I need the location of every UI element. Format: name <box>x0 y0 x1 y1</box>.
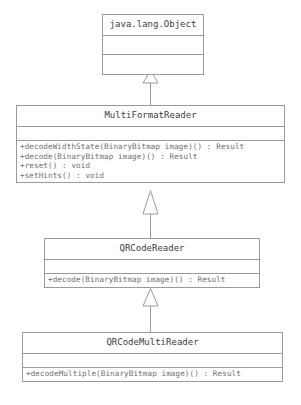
class-name-java-lang-object: java.lang.Object <box>103 15 203 36</box>
class-attributes-qrcodereader <box>45 260 259 274</box>
generalization-qrcodereader-to-multiformatreader <box>143 191 158 239</box>
class-attributes-multiformatreader <box>17 127 284 141</box>
class-operations-qrcodereader: +decode(BinaryBitmap image)() : Result <box>45 274 259 287</box>
operation-row: +decodeMultiple(BinaryBitmap image)() : … <box>26 369 279 379</box>
generalization-multiformatreader-to-object <box>143 71 158 106</box>
class-box-java-lang-object[interactable]: java.lang.Object <box>102 14 204 75</box>
class-box-qrcodemultireader[interactable]: QRCodeMultiReader +decodeMultiple(Binary… <box>22 332 283 382</box>
class-operations-multiformatreader: +decodeWidthState(BinaryBitmap image)() … <box>17 141 284 182</box>
class-operations-java-lang-object <box>103 55 203 74</box>
operation-row: +decode(BinaryBitmap image)() : Result <box>48 275 256 285</box>
class-box-multiformatreader[interactable]: MultiFormatReader +decodeWidthState(Bina… <box>16 105 285 183</box>
class-box-qrcodereader[interactable]: QRCodeReader +decode(BinaryBitmap image)… <box>44 238 260 288</box>
class-name-qrcodemultireader: QRCodeMultiReader <box>23 333 282 354</box>
class-attributes-java-lang-object <box>103 36 203 55</box>
operation-row: +decodeWidthState(BinaryBitmap image)() … <box>20 142 281 152</box>
class-operations-qrcodemultireader: +decodeMultiple(BinaryBitmap image)() : … <box>23 368 282 381</box>
class-name-multiformatreader: MultiFormatReader <box>17 106 284 127</box>
generalization-qrcodemultireader-to-qrcodereader <box>143 289 158 333</box>
operation-row: +decode(BinaryBitmap image)() : Result <box>20 152 281 162</box>
class-name-qrcodereader: QRCodeReader <box>45 239 259 260</box>
operation-row: +reset() : void <box>20 161 281 171</box>
class-attributes-qrcodemultireader <box>23 354 282 368</box>
uml-class-diagram: java.lang.Object MultiFormatReader +deco… <box>0 0 301 405</box>
operation-row: +setHints() : void <box>20 171 281 181</box>
